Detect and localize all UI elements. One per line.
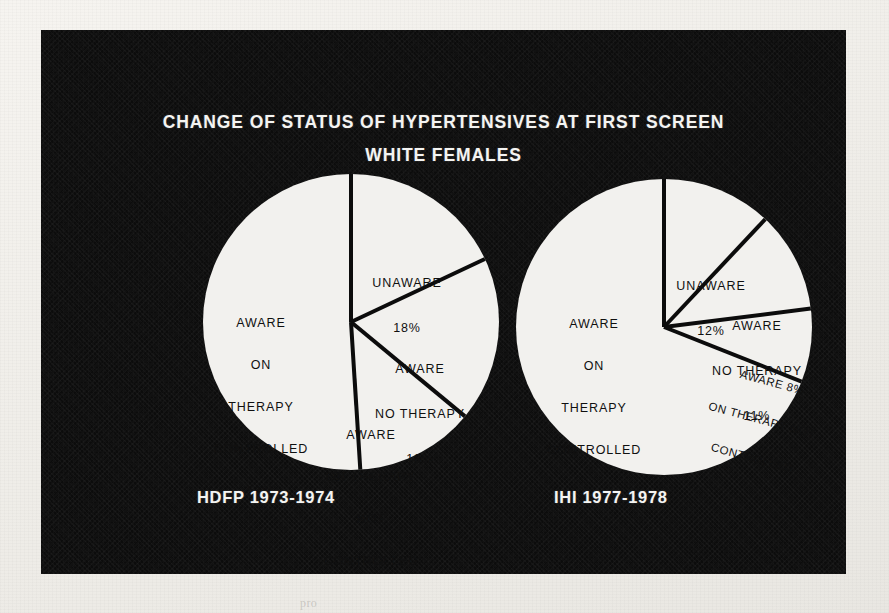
- figure-title-line-1: CHANGE OF STATUS OF HYPERTENSIVES AT FIR…: [41, 112, 846, 133]
- bleed-through-text: pro: [300, 596, 317, 611]
- chart-caption-hdfp: HDFP 1973-1974: [197, 488, 335, 507]
- pie-chart-hdfp-svg: [201, 172, 501, 472]
- figure-plate: CHANGE OF STATUS OF HYPERTENSIVES AT FIR…: [41, 30, 846, 574]
- pie-chart-hdfp: UNAWARE 18% AWARE NO THERAPY 18% AWARE O…: [201, 172, 501, 472]
- pie-chart-ihi: UNAWARE 12% AWARE NO THERAPY 11% AWARE 8…: [514, 177, 814, 477]
- slice-label-aware-not-controlled-l3: NOT: [305, 512, 437, 526]
- page-root: the con tion pro CHANGE OF STATUS OF HYP…: [0, 0, 889, 613]
- chart-caption-ihi: IHI 1977-1978: [554, 488, 668, 507]
- slice-label-aware-not-controlled-l2: ON THERAPY: [305, 470, 437, 484]
- figure-title-line-2: WHITE FEMALES: [41, 145, 846, 166]
- slice-label-aware-not-controlled-l4: CONTROLLED: [305, 554, 437, 568]
- pie-chart-ihi-svg: [514, 177, 814, 477]
